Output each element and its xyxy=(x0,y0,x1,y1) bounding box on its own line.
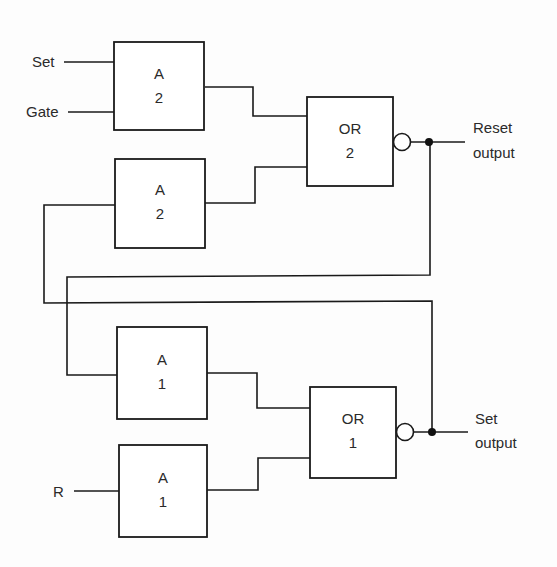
gate-a1-bottom-label: A 1 xyxy=(119,466,207,514)
set-output-label-line1: Set xyxy=(475,411,498,426)
reset-junction-dot-icon xyxy=(425,138,433,146)
set-input-label: Set xyxy=(32,54,55,69)
a1-top-to-or1-wire xyxy=(207,373,310,408)
gate-number: 2 xyxy=(115,202,205,226)
a2-top-to-or2-wire xyxy=(205,87,307,116)
gate-input-label: Gate xyxy=(26,104,59,119)
gate-number: 1 xyxy=(310,431,396,455)
set-output-label-line2: output xyxy=(475,435,517,450)
set-junction-dot-icon xyxy=(428,428,436,436)
gate-type: OR xyxy=(307,117,393,141)
a1-bottom-to-or1-wire xyxy=(207,458,310,490)
gate-type: A xyxy=(117,348,207,372)
r-input-label: R xyxy=(53,484,64,499)
gate-number: 2 xyxy=(307,141,393,165)
a2-bottom-to-or2-wire xyxy=(205,167,307,203)
gate-or1-label: OR 1 xyxy=(310,407,396,455)
reset-output-label-line2: output xyxy=(473,145,515,160)
gate-type: A xyxy=(114,62,204,86)
gate-a2-bottom-label: A 2 xyxy=(115,178,205,226)
gate-or2-label: OR 2 xyxy=(307,117,393,165)
gate-number: 2 xyxy=(114,86,204,110)
gate-a1-top-label: A 1 xyxy=(117,348,207,396)
or2-inverter-bubble-icon xyxy=(394,134,411,151)
gate-type: OR xyxy=(310,407,396,431)
gate-number: 1 xyxy=(117,372,207,396)
or1-inverter-bubble-icon xyxy=(397,424,414,441)
gate-a2-top-label: A 2 xyxy=(114,62,204,110)
reset-output-label-line1: Reset xyxy=(473,120,512,135)
diagram-lines xyxy=(0,0,557,567)
gate-type: A xyxy=(119,466,207,490)
latch-diagram: Set Gate R A 2 A 2 OR 2 A 1 A 1 OR 1 Res… xyxy=(0,0,557,567)
gate-type: A xyxy=(115,178,205,202)
gate-number: 1 xyxy=(119,490,207,514)
